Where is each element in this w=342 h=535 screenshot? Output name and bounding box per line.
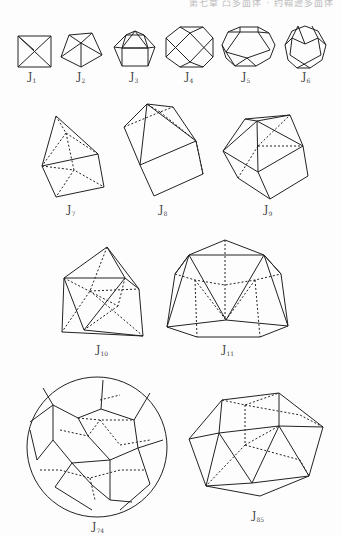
polyhedron-j10	[62, 247, 143, 336]
label-j7: J7	[67, 203, 75, 217]
polyhedron-j8	[124, 104, 203, 196]
label-j11: J11	[222, 343, 234, 357]
label-j3: J3	[130, 70, 138, 84]
label-j5: J5	[242, 70, 250, 84]
polyhedron-j2	[61, 33, 102, 67]
label-j85: J85	[252, 509, 264, 523]
label-j2: J2	[77, 70, 85, 84]
polyhedron-j6	[285, 26, 326, 68]
polyhedron-j3	[114, 31, 155, 66]
polyhedron-j5	[222, 27, 275, 66]
johnson-solids-figure	[0, 0, 342, 535]
polyhedron-j1	[18, 36, 51, 67]
label-j1: J1	[28, 70, 36, 84]
label-j4: J4	[185, 70, 193, 84]
polyhedron-j85	[189, 393, 323, 496]
label-j6: J6	[302, 70, 310, 84]
polyhedron-j11	[167, 240, 288, 337]
polyhedron-j7	[42, 116, 104, 197]
label-j10: J10	[96, 343, 108, 357]
label-j9: J9	[264, 203, 272, 217]
polyhedron-j74	[27, 377, 167, 517]
polyhedron-j4	[166, 27, 213, 67]
label-j8: J8	[159, 203, 167, 217]
polyhedron-j9	[223, 115, 308, 199]
label-j74: J74	[92, 520, 104, 534]
